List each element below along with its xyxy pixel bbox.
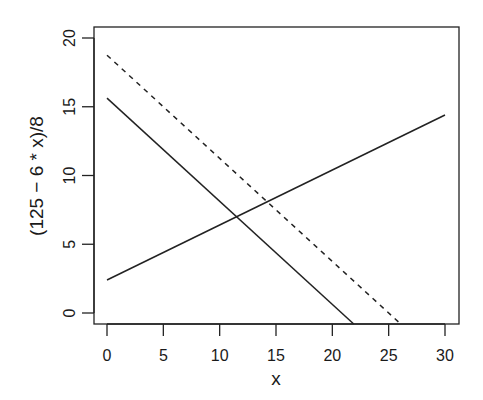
x-tick-label: 15 [267, 347, 285, 364]
y-tick-label: 15 [61, 98, 78, 116]
x-axis: 051015202530 [103, 324, 454, 364]
x-tick-label: 30 [436, 347, 454, 364]
x-tick-label: 10 [211, 347, 229, 364]
data-lines [107, 55, 445, 324]
x-axis-title: x [271, 368, 281, 389]
x-tick-label: 25 [380, 347, 398, 364]
line-chart: 051015202530 05101520 x (125 − 6 * x)/8 [0, 0, 483, 400]
y-tick-label: 20 [61, 29, 78, 47]
y-axis: 05101520 [61, 29, 94, 317]
series-line [107, 55, 401, 324]
x-tick-label: 0 [103, 347, 112, 364]
y-tick-label: 5 [61, 240, 78, 249]
series-line [107, 115, 445, 280]
y-tick-label: 10 [61, 167, 78, 185]
x-tick-label: 5 [159, 347, 168, 364]
x-tick-label: 20 [323, 347, 341, 364]
y-tick-label: 0 [61, 308, 78, 317]
series-line [107, 98, 354, 324]
plot-frame [94, 27, 459, 324]
y-axis-title: (125 − 6 * x)/8 [26, 116, 47, 236]
